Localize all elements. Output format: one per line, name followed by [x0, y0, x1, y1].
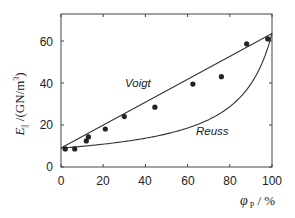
x-axis-unit: / %	[254, 193, 275, 208]
voigt-line	[61, 33, 272, 148]
x-axis-title: φP / %	[240, 193, 275, 210]
y-axis-title: E|| /(GN/m3)	[12, 72, 29, 136]
y-tick-labels: 0 20 40 60	[40, 35, 54, 174]
data-point	[244, 41, 249, 46]
x-tick-labels: 0 20 40 60 80 100	[58, 174, 283, 188]
y-tick-label: 60	[40, 35, 54, 49]
data-point	[190, 81, 195, 86]
y-axis-unit: /(GN/m	[12, 81, 27, 125]
data-point	[63, 146, 68, 151]
y-axis-close: )	[12, 72, 27, 76]
data-point	[86, 134, 91, 139]
x-tick-label: 100	[262, 174, 282, 188]
y-tick-label: 40	[40, 77, 54, 91]
x-tick-label: 20	[96, 174, 110, 188]
x-tick-label: 80	[223, 174, 237, 188]
reuss-label: Reuss	[196, 125, 229, 137]
y-tick-label: 20	[40, 118, 54, 132]
x-tick-label: 0	[58, 174, 65, 188]
data-point	[152, 105, 157, 110]
x-tick-label: 60	[181, 174, 195, 188]
chart: 0 20 40 60 0 20 40 60 80 100 Voigt Reuss…	[0, 0, 295, 218]
data-point	[122, 114, 127, 119]
voigt-label: Voigt	[125, 77, 152, 89]
data-point	[72, 146, 77, 151]
y-axis-symbol: E	[12, 128, 27, 137]
y-tick-label: 0	[46, 160, 53, 174]
x-tick-label: 40	[138, 174, 152, 188]
data-point	[219, 74, 224, 79]
x-axis-symbol: φ	[240, 193, 248, 208]
data-point	[103, 126, 108, 131]
data-point	[265, 36, 270, 41]
